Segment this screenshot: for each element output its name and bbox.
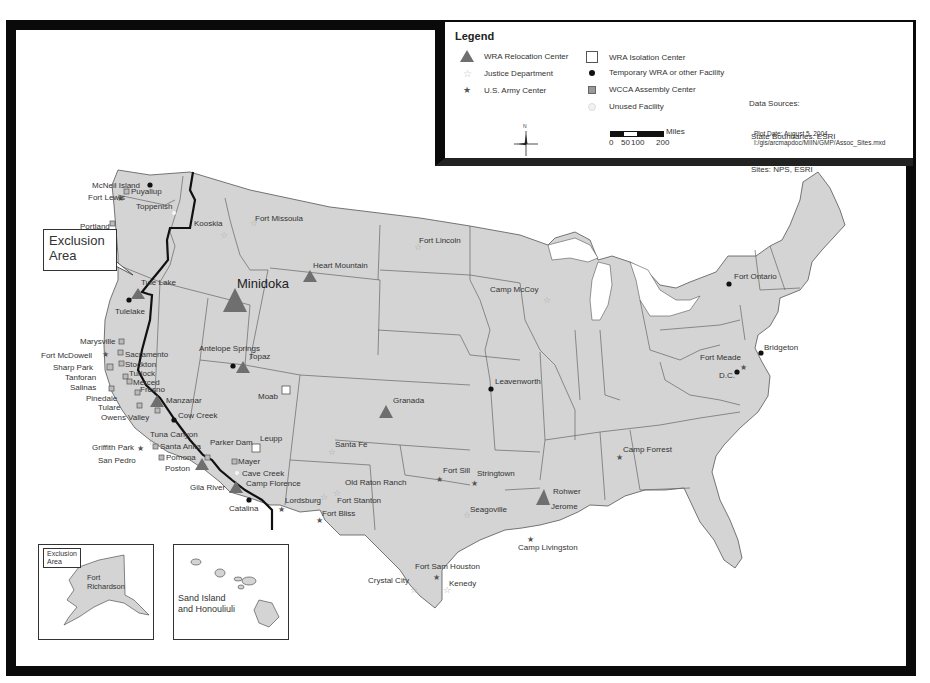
white-dot-icon xyxy=(235,471,239,475)
site-label: Camp Florence xyxy=(246,479,301,488)
site-label: Sacramento xyxy=(125,350,169,359)
site-label: Fort Sam Houston xyxy=(415,562,480,571)
site-label: Tulare xyxy=(98,403,121,412)
open-square-icon xyxy=(583,51,601,63)
site-label: Tule Lake xyxy=(141,278,176,287)
grey-square-icon xyxy=(232,459,237,464)
grey-square-icon xyxy=(155,408,160,413)
site-label: Moab xyxy=(258,392,279,401)
alaska-callout-line1: Exclusion xyxy=(47,550,77,558)
open-star-icon: ☆ xyxy=(458,68,476,79)
black-dot-icon xyxy=(726,281,731,286)
triangle-icon xyxy=(458,50,476,62)
black-dot-icon xyxy=(583,70,601,76)
scale-tick: 0 xyxy=(609,138,613,147)
scale-tick: 100 xyxy=(631,138,644,147)
solid-star-icon: ★ xyxy=(137,444,144,453)
scale-tick: 50 xyxy=(621,138,630,147)
site-label: Fort Meade xyxy=(700,353,741,362)
exclusion-area-line1: Exclusion xyxy=(49,233,111,248)
black-dot-icon xyxy=(758,350,763,355)
site-label: Camp Forrest xyxy=(623,445,673,454)
solid-star-icon: ★ xyxy=(436,475,443,484)
site-label: Fort McDowell xyxy=(41,351,92,360)
site-label: Marysville xyxy=(80,337,116,346)
site-label: Rohwer xyxy=(553,487,581,496)
continental-us-land xyxy=(104,170,845,608)
grey-square-icon xyxy=(119,339,124,344)
site-label: Fresno xyxy=(140,385,165,394)
fort-richardson-label: Fort Richardson xyxy=(87,573,125,591)
open-star-icon: ☆ xyxy=(320,492,328,502)
site-label: San Pedro xyxy=(98,456,136,465)
black-dot-icon xyxy=(171,417,176,422)
north-arrow-icon: N xyxy=(511,122,541,158)
grey-square-icon xyxy=(127,379,132,384)
site-label: Fort Lewis xyxy=(88,193,125,202)
site-label: Santa Fe xyxy=(335,440,368,449)
data-sources-line2: Sites: NPS, ESRI xyxy=(749,164,836,175)
site-label: Tanforan xyxy=(65,373,96,382)
site-label: Antelope Springs xyxy=(199,344,260,353)
site-label: Gila River xyxy=(190,483,225,492)
site-label: Fort Missoula xyxy=(255,214,304,223)
legend-label: Temporary WRA or other Facility xyxy=(609,68,724,77)
fort-richardson-line2: Richardson xyxy=(87,582,125,591)
grey-square-icon xyxy=(109,386,114,391)
site-label: Fort Sill xyxy=(443,466,470,475)
grey-square-icon xyxy=(583,86,601,94)
open-square-icon xyxy=(282,386,290,394)
grey-square-icon xyxy=(107,364,113,370)
site-label: Salinas xyxy=(70,383,96,392)
black-dot-icon xyxy=(126,297,131,302)
grey-square-icon xyxy=(110,221,115,226)
site-label: Jerome xyxy=(551,502,578,511)
open-star-icon: ☆ xyxy=(410,585,418,595)
site-label: Pomona xyxy=(166,453,196,462)
site-label: Camp McCoy xyxy=(490,285,538,294)
solid-star-icon: ★ xyxy=(433,573,440,582)
solid-star-icon: ★ xyxy=(616,453,623,462)
legend-label: WRA Relocation Center xyxy=(484,52,568,61)
site-label: Santa Anita xyxy=(160,442,201,451)
site-label: Stringtown xyxy=(477,469,515,478)
site-label: Tuna Canyon xyxy=(150,430,198,439)
sand-island-line1: Sand Island xyxy=(178,593,235,604)
north-label: N xyxy=(523,123,527,129)
site-label: Leavenworth xyxy=(495,377,541,386)
site-label: Parker Dam xyxy=(210,438,253,447)
legend: Legend WRA Relocation Center ☆ Justice D… xyxy=(435,22,913,166)
alaska-inset: Exclusion Area Fort Richardson xyxy=(38,544,154,640)
hawaii-map xyxy=(174,545,288,639)
black-dot-icon xyxy=(734,369,739,374)
site-label: Crystal City xyxy=(368,576,409,585)
legend-item: Unused Facility xyxy=(583,102,664,111)
site-label: Lordsburg xyxy=(285,496,321,505)
site-label: Stockton xyxy=(125,360,156,369)
black-dot-icon xyxy=(246,497,251,502)
scale-tick: 200 xyxy=(656,138,669,147)
open-square-icon xyxy=(252,444,260,452)
sand-island-line2: and Honouliuli xyxy=(178,604,235,615)
hawaii-inset: Sand Island and Honouliuli xyxy=(173,544,289,640)
site-label: Turlock xyxy=(129,369,156,378)
solid-star-icon: ★ xyxy=(278,505,285,514)
grey-square-icon xyxy=(123,374,128,379)
legend-label: WRA Isolation Center xyxy=(609,53,685,62)
site-label: Pinedale xyxy=(86,394,118,403)
white-dot-icon xyxy=(172,211,176,215)
alaska-callout-line2: Area xyxy=(47,558,77,566)
site-label: Owens Valley xyxy=(101,413,149,422)
alaska-exclusion-callout: Exclusion Area xyxy=(43,548,81,568)
solid-star-icon: ★ xyxy=(102,350,109,359)
exclusion-area-callout: Exclusion Area xyxy=(43,229,117,271)
file-path: I:/gis/arcmapdoc/MIIN/GMP/Assoc_Sites.mx… xyxy=(754,138,885,147)
legend-label: WCCA Assembly Center xyxy=(609,85,696,94)
site-label: Puyallup xyxy=(131,187,162,196)
grey-square-icon xyxy=(159,455,164,460)
site-label: Tulelake xyxy=(115,307,145,316)
grey-square-icon xyxy=(118,350,123,355)
black-dot-icon xyxy=(488,386,493,391)
site-label: Seagoville xyxy=(470,505,507,514)
fort-richardson-line1: Fort xyxy=(87,573,125,582)
